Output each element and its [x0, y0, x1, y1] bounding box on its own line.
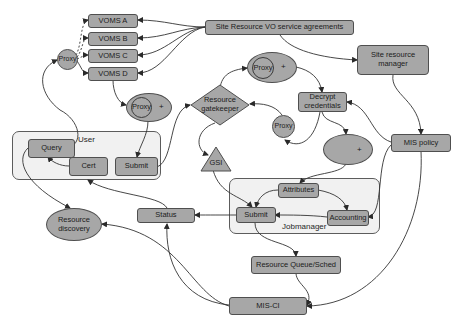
- submit-job-box[interactable]: Submit: [236, 207, 276, 223]
- site-resource-manager-box[interactable]: Site resource manager: [357, 45, 429, 75]
- diagram-canvas: User Jobmanager: [0, 0, 463, 324]
- mis-ci-box[interactable]: MIS-CI: [229, 297, 307, 315]
- voms-b-box[interactable]: VOMS B: [88, 32, 138, 46]
- gsi-label: GSI: [210, 159, 223, 168]
- plus-sign-icon: +: [159, 102, 164, 111]
- accounting-box[interactable]: Accounting: [327, 210, 369, 226]
- plus-ellipse[interactable]: +: [323, 134, 373, 165]
- plus-sign-icon: +: [281, 62, 286, 71]
- cert-box[interactable]: Cert: [69, 157, 108, 176]
- resource-gatekeeper-diamond[interactable]: Resource gatekeeper: [190, 84, 250, 126]
- plus-sign-icon: +: [357, 145, 362, 154]
- proxy-left-circle[interactable]: Proxy: [57, 49, 78, 70]
- resource-discovery-ellipse[interactable]: Resource discovery: [46, 208, 102, 241]
- voms-d-box[interactable]: VOMS D: [88, 67, 138, 81]
- discovery-line2: discovery: [58, 225, 90, 234]
- decrypt-line2: credentials: [304, 102, 340, 111]
- submit-user-box[interactable]: Submit: [115, 157, 158, 176]
- proxy-small-circle[interactable]: Proxy: [272, 115, 295, 138]
- gatekeeper-line2: gatekeeper: [201, 105, 239, 114]
- status-box[interactable]: Status: [137, 208, 195, 223]
- attributes-box[interactable]: Attributes: [278, 183, 319, 198]
- proxy-left-inner-circle: Proxy: [131, 97, 152, 118]
- resource-queue-sched-box[interactable]: Resource Queue/Sched: [251, 256, 341, 274]
- jobmanager-group-label: Jobmanager: [282, 222, 326, 231]
- gsi-triangle[interactable]: GSI: [200, 146, 232, 172]
- proxy-plus-top-ellipse[interactable]: Proxy +: [247, 52, 297, 83]
- proxy-top-inner-circle: Proxy: [252, 57, 274, 79]
- decrypt-credentials-box[interactable]: Decrypt credentials: [298, 92, 347, 112]
- voms-a-box[interactable]: VOMS A: [88, 14, 138, 28]
- proxy-plus-left-ellipse[interactable]: Proxy +: [126, 93, 172, 122]
- mis-policy-box[interactable]: MIS policy: [391, 134, 451, 152]
- site-agreements-box[interactable]: Site Resource VO service agreements: [205, 20, 354, 35]
- query-box[interactable]: Query: [28, 139, 75, 158]
- user-group-label: User: [78, 135, 95, 144]
- site-manager-line2: manager: [378, 60, 408, 69]
- voms-c-box[interactable]: VOMS C: [88, 49, 138, 63]
